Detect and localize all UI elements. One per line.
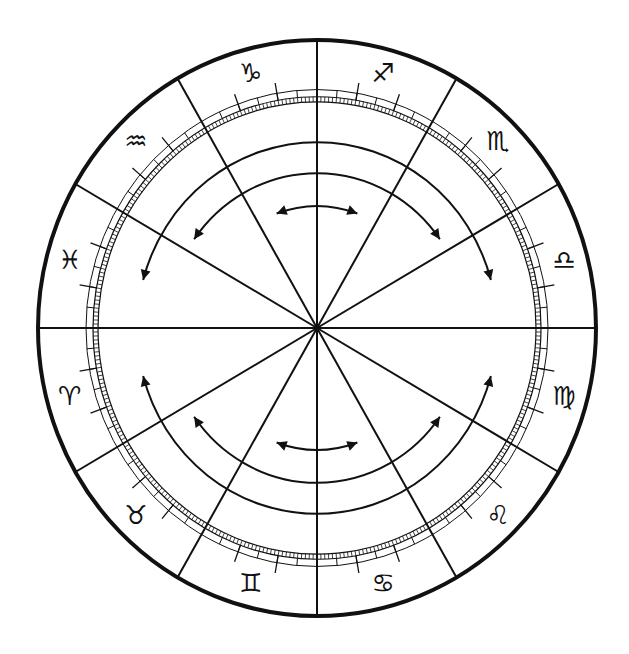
five-degree-tick: [375, 551, 377, 558]
degree-tick: [212, 528, 214, 533]
degree-tick: [355, 551, 356, 556]
degree-tick: [153, 482, 157, 486]
ten-degree-tick: [394, 94, 400, 110]
degree-tick: [416, 122, 418, 127]
degree-tick: [524, 253, 529, 255]
degree-tick: [222, 533, 224, 538]
degree-tick: [270, 549, 271, 554]
degree-tick: [98, 280, 103, 281]
degree-tick: [202, 522, 205, 526]
degree-tick: [395, 112, 397, 117]
degree-tick: [385, 543, 387, 548]
degree-tick: [226, 117, 228, 122]
five-degree-tick: [128, 191, 134, 195]
five-degree-tick: [219, 538, 222, 545]
degree-tick: [526, 260, 531, 262]
degree-tick: [366, 548, 367, 553]
taurus-icon: ♉︎: [124, 500, 147, 530]
five-degree-tick: [87, 348, 94, 349]
degree-tick: [499, 199, 503, 202]
degree-tick: [102, 390, 107, 391]
degree-tick: [385, 108, 387, 113]
libra-icon: ♎︎: [553, 245, 576, 275]
degree-tick: [119, 219, 123, 221]
five-degree-tick: [412, 538, 415, 545]
degree-tick: [374, 546, 375, 551]
degree-tick: [97, 284, 102, 285]
degree-tick: [208, 126, 210, 131]
ten-degree-tick: [235, 545, 241, 561]
ten-degree-tick: [162, 505, 173, 518]
degree-tick: [233, 114, 235, 119]
degree-tick: [101, 387, 106, 388]
degree-tick: [446, 141, 449, 145]
degree-tick: [105, 402, 110, 404]
arrowhead-icon: [141, 376, 151, 387]
degree-tick: [485, 179, 489, 182]
degree-tick: [449, 509, 452, 513]
degree-tick: [477, 482, 481, 486]
degree-tick: [198, 132, 201, 136]
degree-tick: [475, 485, 479, 489]
degree-tick: [282, 551, 283, 556]
degree-tick: [156, 167, 160, 171]
degree-tick: [466, 493, 469, 497]
degree-tick: [501, 202, 505, 205]
ten-degree-tick: [461, 137, 472, 150]
degree-tick: [430, 130, 433, 134]
degree-tick: [286, 99, 287, 104]
ten-degree-tick: [538, 368, 555, 371]
degree-tick: [413, 531, 415, 536]
degree-tick: [259, 105, 260, 110]
cancer-icon: ♋︎: [372, 568, 395, 598]
degree-tick: [523, 405, 528, 407]
degree-tick: [482, 176, 486, 179]
degree-tick: [215, 529, 217, 534]
five-degree-tick: [297, 558, 298, 565]
degree-tick: [97, 371, 102, 372]
ten-degree-tick: [527, 407, 543, 413]
degree-tick: [138, 464, 142, 467]
degree-tick: [151, 173, 155, 176]
degree-tick: [525, 398, 530, 400]
degree-tick: [176, 504, 179, 508]
degree-tick: [534, 296, 539, 297]
degree-tick: [192, 515, 195, 519]
degree-tick: [125, 209, 129, 212]
degree-tick: [510, 434, 514, 436]
degree-tick: [286, 552, 287, 557]
pisces-icon: ♓︎: [58, 245, 81, 275]
degree-tick: [267, 103, 268, 108]
ten-degree-tick: [132, 477, 145, 488]
degree-tick: [439, 515, 442, 519]
degree-tick: [492, 464, 496, 467]
degree-tick: [529, 272, 534, 273]
degree-tick: [487, 182, 491, 185]
degree-tick: [436, 518, 439, 522]
degree-tick: [494, 461, 498, 464]
degree-tick: [151, 479, 155, 482]
degree-tick: [528, 390, 533, 391]
ten-degree-tick: [91, 243, 107, 249]
degree-tick: [469, 162, 472, 166]
five-degree-tick: [533, 388, 540, 390]
degree-tick: [344, 552, 345, 557]
degree-tick: [170, 153, 173, 157]
degree-tick: [363, 102, 364, 107]
five-degree-tick: [540, 307, 547, 308]
degree-tick: [340, 553, 341, 558]
degree-tick: [156, 485, 160, 489]
degree-tick: [443, 139, 446, 143]
degree-tick: [521, 409, 526, 411]
scorpio-icon: ♏︎: [486, 126, 509, 156]
ten-degree-tick: [461, 505, 472, 518]
degree-tick: [121, 438, 125, 441]
degree-tick: [229, 115, 231, 120]
aquarius-icon: ♒︎: [124, 126, 147, 156]
degree-tick: [469, 491, 472, 495]
degree-tick: [515, 424, 520, 426]
gemini-icon: ♊︎: [239, 568, 262, 598]
degree-tick: [195, 518, 198, 522]
house-cusp-line: [317, 328, 559, 472]
degree-tick: [464, 496, 467, 500]
